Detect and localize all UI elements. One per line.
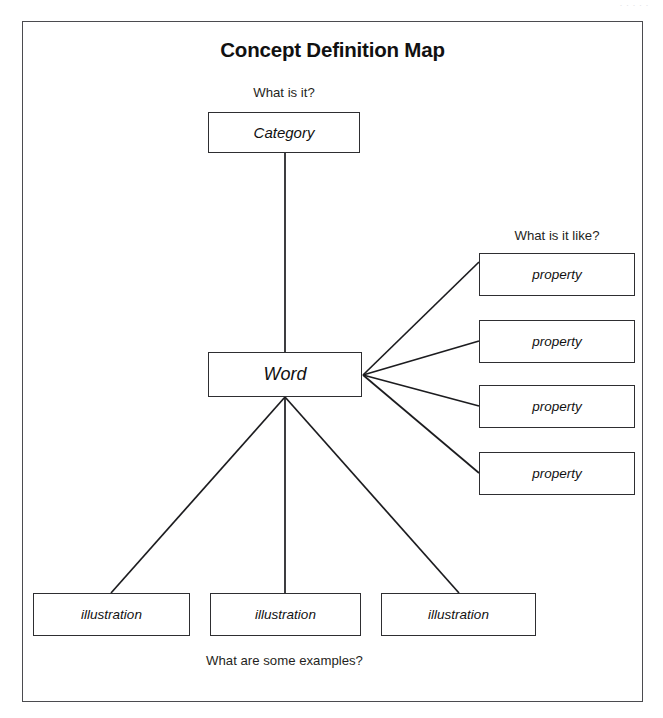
node-word[interactable]: Word xyxy=(208,352,362,397)
node-property-4[interactable]: property xyxy=(479,452,635,495)
node-property-3[interactable]: property xyxy=(479,385,635,428)
caption-what-are-some-examples: What are some examples? xyxy=(33,653,536,668)
concept-definition-map-page: · · · · · Concept Definition Map What is… xyxy=(0,0,663,718)
node-illustration-3[interactable]: illustration xyxy=(381,593,536,636)
node-illustration-1[interactable]: illustration xyxy=(33,593,190,636)
node-property-2[interactable]: property xyxy=(479,320,635,363)
caption-what-is-it-like: What is it like? xyxy=(479,228,635,243)
caption-what-is-it: What is it? xyxy=(208,85,360,100)
node-illustration-2[interactable]: illustration xyxy=(210,593,361,636)
node-category[interactable]: Category xyxy=(208,112,360,153)
node-property-1[interactable]: property xyxy=(479,253,635,296)
scan-header-artifact: · · · · · xyxy=(0,0,663,14)
page-title: Concept Definition Map xyxy=(22,38,643,62)
